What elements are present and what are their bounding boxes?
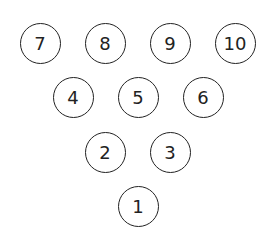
pin-4: 4 bbox=[53, 77, 94, 118]
pin-10: 10 bbox=[215, 23, 256, 64]
pin-1: 1 bbox=[118, 186, 159, 227]
pin-2: 2 bbox=[85, 132, 126, 173]
pin-9: 9 bbox=[150, 23, 191, 64]
pin-3: 3 bbox=[150, 132, 191, 173]
pin-6: 6 bbox=[183, 77, 224, 118]
pin-5: 5 bbox=[118, 77, 159, 118]
pin-7: 7 bbox=[20, 23, 61, 64]
pin-8: 8 bbox=[85, 23, 126, 64]
